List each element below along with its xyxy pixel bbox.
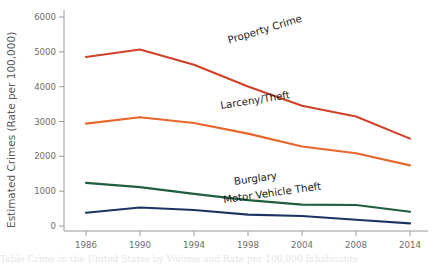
x-tick-label-1986: 1986 [75,240,97,250]
y-axis: 6000 5000 4000 3000 2000 1000 0 [34,10,64,231]
series-line-property-crime [86,49,410,138]
series-label-larceny-theft: Larceny/Theft [220,89,291,111]
line-chart: Estimated Crimes (Rate per 100,000) 6000… [0,0,437,264]
y-tick-label-1000: 1000 [34,186,56,196]
x-tick-label-1998: 1998 [237,240,259,250]
series-line-larceny-theft [86,117,410,165]
y-tick-label-5000: 5000 [34,47,56,57]
series-labels: Property Crime Larceny/Theft Burglary Mo… [220,13,322,205]
chart-container: Estimated Crimes (Rate per 100,000) 6000… [0,0,437,264]
x-tick-label-1994: 1994 [183,240,205,250]
x-tick-label-2014: 2014 [399,240,421,250]
x-axis: 1986 1990 1994 1998 2004 2008 2014 [64,231,428,250]
y-axis-title: Estimated Crimes (Rate per 100,000) [5,32,17,228]
series-line-motor-vehicle-theft [86,207,410,223]
series-label-property-crime: Property Crime [226,13,303,46]
x-tick-label-2004: 2004 [291,240,313,250]
y-tick-label-4000: 4000 [34,82,56,92]
cut-off-caption: Table Crime in the United States by Volu… [0,254,437,264]
x-tick-label-2008: 2008 [345,240,367,250]
series-label-burglary: Burglary [233,170,277,187]
y-tick-label-2000: 2000 [34,151,56,161]
y-tick-label-0: 0 [51,221,56,231]
x-tick-label-1990: 1990 [129,240,151,250]
y-tick-label-6000: 6000 [34,12,56,22]
y-tick-label-3000: 3000 [34,117,56,127]
